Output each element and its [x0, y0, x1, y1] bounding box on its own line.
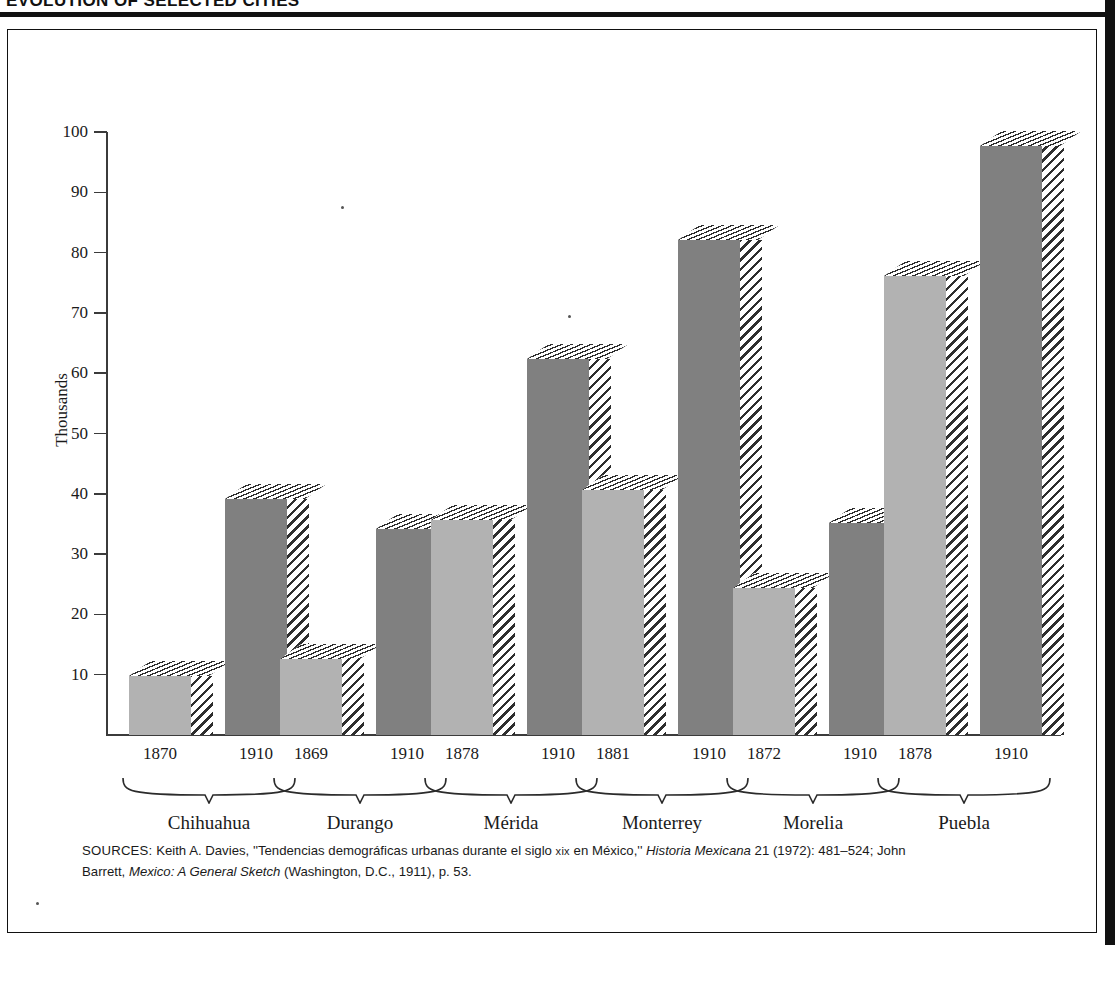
- sources-line1-b: en México,'': [570, 843, 646, 858]
- bar-side-face: [342, 659, 364, 735]
- y-tick-label-text: 100: [42, 123, 88, 140]
- bar-side-face: [191, 676, 213, 735]
- group-brace-monterrey: [574, 778, 750, 804]
- y-tick-90: [94, 192, 107, 194]
- bar-chart: Thousands 102030405060708090100 18701910…: [8, 30, 1098, 934]
- bar-top-face: [527, 344, 628, 359]
- y-tick-40: [94, 493, 107, 495]
- figure-page: EVOLUTION OF SELECTED CITIES Thousands 1…: [0, 0, 1115, 990]
- bar-puebla-1878: [884, 261, 968, 735]
- bar-front-face: [280, 659, 342, 735]
- year-label-mérida-1878: 1878: [417, 744, 507, 764]
- y-tick-label-30: 30: [34, 545, 88, 563]
- bar-top-face: [129, 661, 230, 676]
- year-label-monterrey-1881: 1881: [568, 744, 658, 764]
- sources-journal-1: Historia: [646, 843, 691, 858]
- sources-label: SOURCES:: [82, 843, 152, 858]
- bar-top-face: [678, 225, 779, 240]
- group-label-puebla: Puebla: [849, 812, 1079, 834]
- y-tick-10: [94, 674, 107, 676]
- y-tick-label-text: 90: [42, 183, 88, 200]
- year-label-chihuahua-1870: 1870: [115, 744, 205, 764]
- y-tick-label-text: 60: [42, 364, 88, 381]
- y-tick-50: [94, 433, 107, 435]
- bar-puebla-1910: [980, 131, 1064, 735]
- year-label-morelia-1872: 1872: [719, 744, 809, 764]
- y-tick-70: [94, 312, 107, 314]
- sources-line1-a: Keith A. Davies, ''Tendencias demográfic…: [152, 843, 555, 858]
- header-rule: [0, 12, 1115, 17]
- bar-chihuahua-1870: [129, 661, 213, 735]
- group-brace-morelia: [725, 778, 901, 804]
- y-tick-label-40: 40: [34, 485, 88, 503]
- sources-line2-b: (Washington, D.C., 1911), p. 53.: [280, 864, 471, 879]
- sources-journal-2: Mexicana: [694, 843, 750, 858]
- bar-side-face: [493, 520, 515, 735]
- y-tick-label-50: 50: [34, 425, 88, 443]
- bar-front-face: [225, 499, 287, 735]
- sources-booktitle: Mexico: A General Sketch: [129, 864, 280, 879]
- bar-side-face: [1042, 146, 1064, 735]
- sources-note: SOURCES: Keith A. Davies, ''Tendencias d…: [82, 840, 912, 883]
- bar-durango-1869: [280, 644, 364, 735]
- bar-top-face: [225, 484, 326, 499]
- y-tick-label-70: 70: [34, 304, 88, 322]
- y-tick-20: [94, 614, 107, 616]
- bar-top-face: [980, 131, 1081, 146]
- bar-side-face: [795, 588, 817, 735]
- bar-front-face: [829, 523, 891, 735]
- bar-monterrey-1881: [582, 475, 666, 735]
- y-tick-80: [94, 252, 107, 254]
- y-tick-label-text: 50: [42, 425, 88, 442]
- group-brace-durango: [272, 778, 448, 804]
- print-speck: [568, 315, 571, 318]
- group-brace-chihuahua: [121, 778, 297, 804]
- y-tick-label-10: 10: [34, 666, 88, 684]
- y-tick-label-text: 80: [42, 244, 88, 261]
- print-speck: [36, 902, 39, 905]
- y-tick-label-100: 100: [34, 123, 88, 141]
- bar-front-face: [129, 676, 191, 735]
- year-label-durango-1869: 1869: [266, 744, 356, 764]
- bar-top-face: [582, 475, 683, 490]
- y-tick-label-text: 20: [42, 605, 88, 622]
- bar-front-face: [980, 146, 1042, 735]
- y-tick-label-80: 80: [34, 244, 88, 262]
- bar-top-face: [280, 644, 381, 659]
- y-tick-100: [94, 131, 107, 133]
- y-tick-label-text: 40: [42, 485, 88, 502]
- bar-mérida-1878: [431, 505, 515, 735]
- group-brace-mérida: [423, 778, 599, 804]
- y-tick-label-20: 20: [34, 605, 88, 623]
- y-axis-title: Thousands: [52, 340, 72, 480]
- page-bleed-bar: [1105, 0, 1115, 945]
- year-label-puebla-1878: 1878: [870, 744, 960, 764]
- bar-side-face: [946, 276, 968, 735]
- bar-top-face: [884, 261, 985, 276]
- group-brace-puebla: [876, 778, 1052, 804]
- bar-top-face: [733, 573, 834, 588]
- y-tick-label-60: 60: [34, 364, 88, 382]
- y-tick-label-text: 10: [42, 666, 88, 683]
- y-tick-label-text: 70: [42, 304, 88, 321]
- bar-front-face: [431, 520, 493, 735]
- bar-front-face: [582, 490, 644, 735]
- bar-front-face: [733, 588, 795, 735]
- sources-xix: xix: [556, 845, 570, 857]
- y-tick-60: [94, 372, 107, 374]
- print-speck: [341, 206, 344, 209]
- y-tick-label-text: 30: [42, 545, 88, 562]
- running-head: EVOLUTION OF SELECTED CITIES: [6, 0, 566, 11]
- y-tick-30: [94, 553, 107, 555]
- year-label-puebla-1910: 1910: [966, 744, 1056, 764]
- figure-frame: Thousands 102030405060708090100 18701910…: [7, 29, 1097, 933]
- bar-front-face: [884, 276, 946, 735]
- bar-front-face: [527, 359, 589, 735]
- y-tick-label-90: 90: [34, 183, 88, 201]
- bar-top-face: [431, 505, 532, 520]
- bar-side-face: [644, 490, 666, 735]
- bar-morelia-1872: [733, 573, 817, 735]
- bar-front-face: [376, 529, 438, 735]
- bar-front-face: [678, 240, 740, 735]
